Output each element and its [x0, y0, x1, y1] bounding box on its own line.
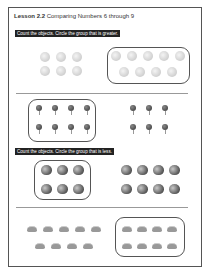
instruction-banner-less: Count the objects. Circle the group that… [15, 148, 114, 155]
pin-icon [162, 105, 168, 115]
ball-icon [175, 51, 185, 61]
pin-icon [146, 124, 152, 134]
ball-icon [40, 66, 50, 76]
pin-icon [36, 124, 42, 134]
apple-icon [169, 184, 180, 194]
cloud-icon [167, 226, 177, 232]
cloud-icon [51, 243, 61, 249]
cloud-icon [152, 226, 162, 232]
apple-icon [121, 184, 132, 194]
apple-icon [137, 165, 148, 175]
cloud-icon [43, 226, 53, 232]
ball-icon [159, 51, 169, 61]
pin-icon [84, 124, 90, 134]
apple-icon [169, 165, 180, 175]
ball-icon [72, 52, 82, 62]
ball-icon [56, 66, 66, 76]
cloud-icon [91, 226, 101, 232]
worksheet-title: Lesson 2.2 Comparing Numbers 6 through 9 [14, 13, 134, 19]
divider [16, 207, 188, 208]
cloud-icon [137, 243, 147, 249]
instruction-banner-greater: Count the objects. Circle the group that… [15, 30, 120, 37]
apple-icon [153, 165, 164, 175]
apple-icon [57, 184, 68, 194]
ball-icon [72, 66, 82, 76]
divider [16, 93, 188, 94]
apple-icon [153, 184, 164, 194]
cloud-icon [122, 226, 132, 232]
ball-icon [167, 67, 177, 77]
ball-icon [40, 52, 50, 62]
pin-icon [162, 124, 168, 134]
lesson-title: Comparing Numbers 6 through 9 [47, 13, 134, 19]
cloud-icon [35, 243, 45, 249]
ball-icon [56, 52, 66, 62]
cloud-icon [167, 243, 177, 249]
pin-icon [68, 124, 74, 134]
cloud-icon [27, 226, 37, 232]
apple-icon [137, 184, 148, 194]
ball-icon [119, 67, 129, 77]
circled-group-answer[interactable] [115, 217, 185, 257]
ball-icon [143, 51, 153, 61]
ball-icon [151, 67, 161, 77]
pin-icon [130, 124, 136, 134]
cloud-icon [152, 243, 162, 249]
cloud-icon [67, 243, 77, 249]
apple-icon [73, 165, 84, 175]
cloud-icon [83, 243, 93, 249]
pin-icon [52, 124, 58, 134]
apple-icon [73, 184, 84, 194]
cloud-icon [75, 226, 85, 232]
ball-icon [135, 67, 145, 77]
pin-icon [146, 105, 152, 115]
pin-icon [130, 105, 136, 115]
ball-icon [111, 51, 121, 61]
ball-icon [127, 51, 137, 61]
pin-icon [84, 105, 90, 115]
cloud-icon [122, 243, 132, 249]
apple-icon [57, 165, 68, 175]
pin-icon [68, 105, 74, 115]
pin-icon [52, 105, 58, 115]
apple-icon [121, 165, 132, 175]
lesson-label: Lesson 2.2 [14, 13, 45, 19]
cloud-icon [59, 226, 69, 232]
apple-icon [41, 184, 52, 194]
cloud-icon [137, 226, 147, 232]
pin-icon [36, 105, 42, 115]
apple-icon [41, 165, 52, 175]
